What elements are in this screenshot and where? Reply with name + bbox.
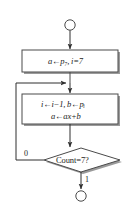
loop-box-line-2: a←ax+b xyxy=(51,112,81,121)
branch-label-true: 1 xyxy=(85,176,89,184)
branch-label-false: 0 xyxy=(24,150,28,158)
flowchart-canvas: a←p₇, i=7 i←i−1, b←pᵢ a←ax+b Count=7? 0 … xyxy=(0,0,138,213)
decision-label: Count=7? xyxy=(56,156,89,165)
init-box-line-1: a←p₇, i=7 xyxy=(48,57,83,66)
loop-box-line-1: i←i−1, b←pᵢ xyxy=(41,100,85,109)
start-terminal xyxy=(65,20,75,30)
end-terminal xyxy=(76,191,86,201)
